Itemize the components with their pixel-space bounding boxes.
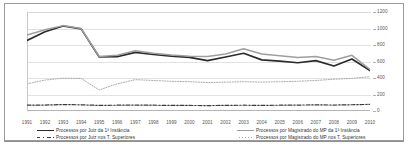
x-tick-label: 1994 (73, 120, 89, 126)
legend-item[interactable]: Processos por Juiz da 1ª Instância (37, 128, 130, 134)
x-tick-label: 2007 (308, 120, 324, 126)
y-tick-mark (373, 111, 376, 112)
x-tick-label: 2006 (290, 120, 306, 126)
legend-item[interactable]: Processos por Magistrado do MP da 1ª Ins… (237, 128, 360, 134)
chart-frame: 020040060080010001200 199119921993199419… (4, 3, 404, 141)
x-tick-label: 1998 (145, 120, 161, 126)
data-series-line (27, 26, 370, 71)
legend-swatch-solid-light (237, 128, 254, 134)
x-tick-label: 1999 (163, 120, 179, 126)
legend-label: Processos por Juiz da 1ª Instância (56, 128, 130, 134)
x-tick-label: 1996 (109, 120, 125, 126)
x-tick-label: 1991 (19, 120, 35, 126)
series-canvas (27, 12, 370, 111)
y-tick-label: 1200 (377, 9, 388, 14)
y-tick-mark (373, 62, 376, 63)
y-tick-label: 800 (377, 42, 385, 47)
x-tick-label: 2003 (236, 120, 252, 126)
x-tick-label: 2005 (272, 120, 288, 126)
y-tick-label: 0 (377, 108, 380, 113)
chart-legend: Processos por Juiz da 1ª InstânciaProces… (15, 128, 395, 141)
x-tick-label: 2000 (181, 120, 197, 126)
x-tick-label: 1992 (37, 120, 53, 126)
y-tick-mark (373, 12, 376, 13)
legend-label: Processos por Magistrado do MP da 1ª Ins… (256, 128, 360, 134)
x-tick-label: 2009 (344, 120, 360, 126)
x-tick-label: 2008 (326, 120, 342, 126)
y-tick-mark (373, 95, 376, 96)
y-tick-label: 1000 (377, 26, 388, 31)
y-tick-label: 600 (377, 59, 385, 64)
x-tick-label: 2001 (200, 120, 216, 126)
x-tick-label: 1993 (55, 120, 71, 126)
data-series-line (27, 77, 370, 90)
data-series-line (27, 104, 370, 105)
legend-swatch-solid-dark (37, 128, 54, 134)
y-tick-mark (373, 78, 376, 79)
x-tick-label: 1997 (127, 120, 143, 126)
x-tick-label: 2002 (218, 120, 234, 126)
x-axis: 1991199219931994199519961997199819992000… (15, 120, 395, 128)
legend-separator (4, 141, 404, 142)
y-tick-label: 400 (377, 75, 385, 80)
y-tick-label: 200 (377, 92, 385, 97)
y-tick-mark (373, 29, 376, 30)
x-tick-label: 1995 (91, 120, 107, 126)
data-series-line (27, 26, 370, 70)
x-tick-label: 2004 (254, 120, 270, 126)
x-tick-label: 2010 (362, 120, 378, 126)
plot-wrapper: 020040060080010001200 (15, 12, 395, 119)
y-tick-mark (373, 45, 376, 46)
y-axis: 020040060080010001200 (373, 12, 403, 111)
